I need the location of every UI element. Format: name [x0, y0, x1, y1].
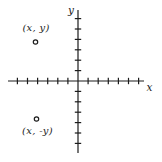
point-marker — [33, 40, 37, 44]
point-label-xy: (x, y) — [22, 23, 49, 33]
point-marker — [34, 117, 38, 121]
y-axis-label: y — [68, 5, 74, 16]
point-label-x-negy: (x, -y) — [22, 126, 53, 136]
coordinate-plane-diagram: (x, y) (x, -y) x y — [0, 0, 162, 162]
x-axis-label: x — [146, 81, 152, 92]
